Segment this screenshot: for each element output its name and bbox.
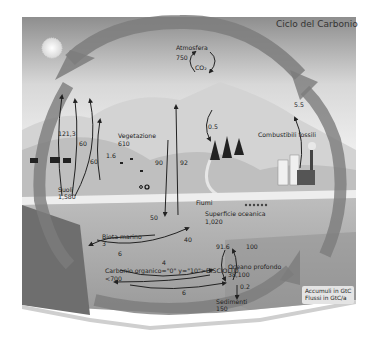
flux-50: 50	[150, 214, 158, 221]
flux-90: 90	[155, 159, 163, 166]
label-rivers: Fiumi	[196, 199, 213, 206]
value-soils: 1,580	[58, 193, 76, 200]
value-surface-ocean: 1,020	[205, 218, 223, 225]
flux-91-6: 91.6	[216, 243, 230, 250]
label-organic-carbon: Carbonio organico="0" y="10">DISCIOLTO	[105, 267, 239, 274]
flux-1-6: 1.6	[106, 152, 116, 159]
legend-fluxes: Flussi in GtC/a	[305, 295, 351, 302]
legend-box: Accumuli in GtC Flussi in GtC/a	[302, 286, 354, 304]
flux-92: 92	[180, 159, 188, 166]
value-atmosphere: 750	[176, 54, 188, 61]
value-organic-carbon: <700	[105, 275, 122, 282]
legend-stocks: Accumuli in GtC	[305, 288, 351, 295]
label-soils: Suoli	[58, 186, 73, 193]
flux-0-2: 0.2	[240, 283, 250, 290]
value-deep-ocean: 38,100	[228, 271, 250, 278]
flux-6: 6	[118, 250, 122, 257]
flux-5-5: 5.5	[294, 101, 304, 108]
label-atmosphere: Atmosfera	[176, 44, 208, 51]
flux-6-b: 6	[182, 289, 186, 296]
value-marine-biota: 3	[102, 240, 106, 247]
label-fossil-fuels: Combustibili fossili	[258, 131, 316, 138]
flux-100: 100	[246, 243, 258, 250]
value-sediments: 150	[216, 305, 228, 312]
label-vegetation: Vegetazione	[118, 132, 156, 139]
label-sediments: Sedimenti	[216, 298, 247, 305]
sun-icon	[42, 38, 62, 58]
co2-label: CO₂	[195, 64, 207, 71]
flux-121-3: 121,3	[58, 130, 76, 137]
label-marine-biota: Biota marino	[102, 233, 142, 240]
value-vegetation: 610	[118, 140, 130, 147]
flux-40: 40	[184, 236, 192, 243]
label-deep-ocean: Oceano profondo	[228, 263, 281, 270]
flux-60-a: 60	[79, 140, 87, 147]
carbon-cycle-diagram: Ciclo del Carbonio Atmosfera 750 CO₂ Veg…	[0, 0, 381, 342]
label-surface-ocean: Superficie oceanica	[205, 210, 266, 217]
diagram-title: Ciclo del Carbonio	[276, 19, 358, 29]
flux-4: 4	[162, 259, 166, 266]
flux-0-5: 0.5	[208, 123, 218, 130]
flux-60-b: 60	[90, 158, 98, 165]
